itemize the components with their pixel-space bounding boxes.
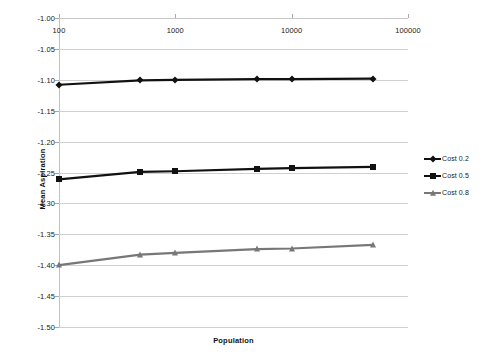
data-point-marker bbox=[137, 251, 143, 257]
y-tick-label: -1.35 bbox=[3, 230, 55, 239]
y-tick-label: -1.25 bbox=[3, 168, 55, 177]
legend-label: Cost 0.8 bbox=[442, 189, 469, 196]
data-point-marker bbox=[289, 165, 295, 171]
legend-label: Cost 0.5 bbox=[442, 172, 469, 179]
series-line bbox=[59, 79, 373, 85]
data-point-marker bbox=[254, 166, 260, 172]
legend-key-icon bbox=[424, 187, 441, 198]
y-tick-label: -1.40 bbox=[3, 261, 55, 270]
legend-key-icon bbox=[424, 170, 441, 181]
y-tick-label: -1.15 bbox=[3, 106, 55, 115]
y-tick-label: -1.20 bbox=[3, 137, 55, 146]
series-lines bbox=[59, 18, 408, 327]
gridline bbox=[59, 327, 408, 328]
chart-legend: Cost 0.2Cost 0.5Cost 0.8 bbox=[424, 150, 494, 201]
y-axis-ticks: -1.00-1.05-1.10-1.15-1.20-1.25-1.30-1.35… bbox=[0, 18, 55, 327]
y-tick-label: -1.00 bbox=[3, 14, 55, 23]
legend-marker bbox=[430, 189, 436, 195]
legend-label: Cost 0.2 bbox=[442, 155, 469, 162]
data-point-marker bbox=[370, 164, 376, 170]
y-tick-label: -1.10 bbox=[3, 75, 55, 84]
legend-marker bbox=[429, 155, 436, 162]
data-point-marker bbox=[172, 249, 178, 255]
data-point-marker bbox=[254, 246, 260, 252]
data-point-marker bbox=[137, 169, 143, 175]
series-line bbox=[59, 167, 373, 179]
legend-key-icon bbox=[424, 153, 441, 164]
plot-area: 100100010000100000 bbox=[59, 18, 408, 327]
y-tick-label: -1.05 bbox=[3, 44, 55, 53]
legend-item: Cost 0.2 bbox=[424, 150, 494, 167]
y-tick-label: -1.45 bbox=[3, 292, 55, 301]
data-point-marker bbox=[172, 168, 178, 174]
y-tick-label: -1.30 bbox=[3, 199, 55, 208]
data-point-marker bbox=[370, 241, 376, 247]
chart-root: Mean Aspiration -1.00-1.05-1.10-1.15-1.2… bbox=[0, 0, 495, 357]
data-point-marker bbox=[56, 176, 62, 182]
x-tick-mark bbox=[408, 14, 409, 18]
data-point-marker bbox=[56, 262, 62, 268]
legend-marker bbox=[430, 173, 436, 179]
y-tick-label: -1.50 bbox=[3, 323, 55, 332]
x-axis-title: Population bbox=[59, 336, 408, 345]
legend-item: Cost 0.8 bbox=[424, 184, 494, 201]
series-line bbox=[59, 245, 373, 265]
data-point-marker bbox=[289, 245, 295, 251]
legend-item: Cost 0.5 bbox=[424, 167, 494, 184]
